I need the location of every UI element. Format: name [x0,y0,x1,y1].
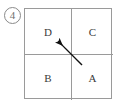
quadrant-cell-bottom-right: A [72,55,113,100]
quadrant-cell-top-left: D [25,9,71,54]
quadrant-grid: D C B A [24,8,112,99]
item-number-badge: 4 [4,7,21,24]
quadrant-cell-top-right: C [72,9,113,54]
figure-root: 4 D C B A [0,0,119,106]
quadrant-cell-bottom-left: B [25,55,71,100]
